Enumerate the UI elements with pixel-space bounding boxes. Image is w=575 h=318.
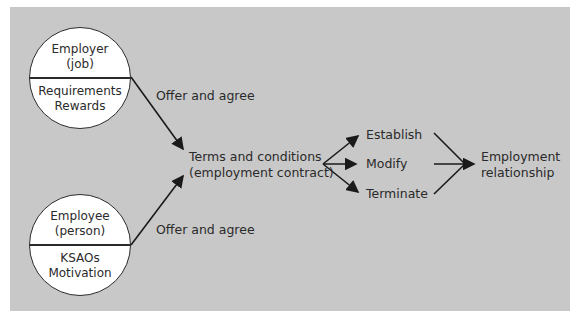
employee-title: Employee (person) [30, 209, 130, 239]
employer-divider [30, 77, 130, 79]
offer-agree-top-label: Offer and agree [156, 88, 255, 104]
employee-attributes: KSAOs Motivation [30, 251, 130, 281]
action-modify: Modify [366, 156, 407, 172]
employer-attributes: Requirements Rewards [30, 84, 130, 114]
employee-circle: Employee (person) KSAOs Motivation [29, 194, 131, 296]
action-terminate: Terminate [366, 186, 428, 202]
employer-circle: Employer (job) Requirements Rewards [29, 27, 131, 129]
action-establish: Establish [366, 127, 422, 143]
offer-agree-bottom-label: Offer and agree [156, 222, 255, 238]
employee-divider [30, 244, 130, 246]
employment-relationship-label: Employment relationship [481, 149, 560, 181]
terms-conditions-label: Terms and conditions (employment contrac… [189, 149, 334, 181]
employer-title: Employer (job) [30, 42, 130, 72]
